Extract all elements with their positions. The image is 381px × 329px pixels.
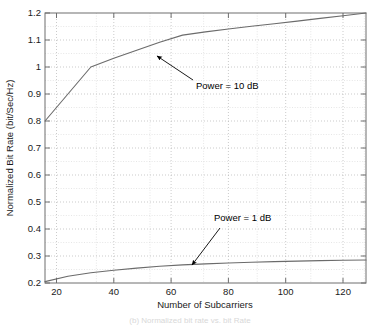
- normalized-bit-rate-chart: 0.2 0.3 0.4 0.5 0.6 0.7 0.8 0.9 1 1.1 1.…: [0, 0, 381, 329]
- annotation-label-10db: Power = 10 dB: [196, 80, 259, 91]
- y-tick-label: 0.9: [28, 88, 41, 99]
- x-tick-label: 80: [223, 286, 234, 297]
- figure-container: 0.2 0.3 0.4 0.5 0.6 0.7 0.8 0.9 1 1.1 1.…: [0, 0, 381, 329]
- x-tick-label: 20: [51, 286, 62, 297]
- figure-background: [0, 0, 381, 329]
- y-tick-label: 1.2: [28, 7, 41, 18]
- y-tick-label: 1.1: [28, 34, 41, 45]
- y-tick-label: 0.7: [28, 142, 41, 153]
- x-tick-label: 120: [335, 286, 351, 297]
- y-axis-title: Normalized Bit Rate (bit/Sec/Hz): [4, 80, 15, 217]
- y-tick-label: 0.3: [28, 250, 41, 261]
- figure-caption: (b) Normalized bit rate vs. bit Rate: [129, 316, 251, 325]
- y-tick-label: 0.4: [28, 223, 41, 234]
- y-tick-label: 1: [36, 61, 41, 72]
- y-tick-label: 0.6: [28, 169, 41, 180]
- y-tick-label: 0.5: [28, 196, 41, 207]
- y-tick-label: 0.2: [28, 277, 41, 288]
- annotation-label-1db: Power = 1 dB: [214, 212, 271, 223]
- x-axis-title: Number of Subcarriers: [157, 299, 253, 310]
- x-tick-label: 40: [109, 286, 120, 297]
- x-tick-label: 60: [166, 286, 177, 297]
- y-tick-label: 0.8: [28, 115, 41, 126]
- x-tick-label: 100: [278, 286, 294, 297]
